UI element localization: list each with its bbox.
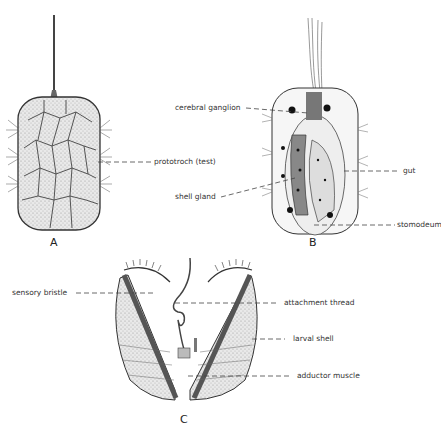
diagram-drawings <box>0 0 441 427</box>
label-larval-shell: larval shell <box>293 335 334 343</box>
label-attachment-thread: attachment thread <box>284 299 355 307</box>
label-shell-gland: shell gland <box>175 193 216 201</box>
label-cerebral-ganglion: cerebral ganglion <box>175 104 241 112</box>
label-gut: gut <box>403 167 415 175</box>
figure-letter-a: A <box>50 237 58 248</box>
label-stomodeum: stomodeum <box>397 221 441 229</box>
label-prototroch: prototroch (test) <box>154 158 216 166</box>
larval-anatomy-diagram: prototroch (test) A cerebral ganglion gu… <box>0 0 441 427</box>
figure-c-drawing <box>76 258 290 400</box>
figure-letter-c: C <box>180 414 188 425</box>
figure-a-drawing <box>6 15 152 230</box>
figure-b-drawing <box>221 18 400 235</box>
label-adductor-muscle: adductor muscle <box>297 372 360 380</box>
figure-letter-b: B <box>309 237 317 248</box>
label-sensory-bristle: sensory bristle <box>12 289 67 297</box>
